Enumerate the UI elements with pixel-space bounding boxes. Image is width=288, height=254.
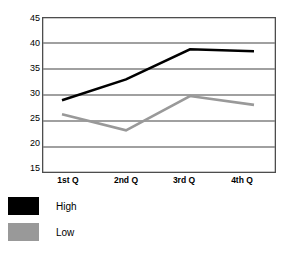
legend-label-low: Low — [56, 227, 74, 238]
y-tick-label-35: 35 — [18, 64, 40, 73]
plot-area-wrapper: 45 40 35 30 25 20 15 1st Q 2nd Q 3rd Q 4… — [0, 0, 288, 190]
x-tick-label-3rd-q: 3rd Q — [161, 176, 207, 185]
x-tick-label-2nd-q: 2nd Q — [103, 176, 149, 185]
chart-legend: High Low — [8, 193, 288, 245]
legend-item-high: High — [8, 193, 288, 219]
plot-canvas — [42, 17, 276, 173]
x-tick-label-1st-q: 1st Q — [45, 176, 91, 185]
x-tick-label-4th-q: 4th Q — [219, 176, 265, 185]
y-axis: 45 40 35 30 25 20 15 — [16, 0, 40, 175]
legend-swatch-low — [8, 223, 39, 241]
legend-label-high: High — [56, 201, 77, 212]
y-tick-label-40: 40 — [18, 39, 40, 48]
legend-item-low: Low — [8, 219, 288, 245]
y-tick-label-30: 30 — [18, 89, 40, 98]
y-tick-label-25: 25 — [18, 114, 40, 123]
y-tick-label-15: 15 — [18, 164, 40, 173]
legend-swatch-high — [8, 197, 39, 215]
y-tick-label-20: 20 — [18, 139, 40, 148]
y-tick-label-45: 45 — [18, 14, 40, 23]
line-chart: 45 40 35 30 25 20 15 1st Q 2nd Q 3rd Q 4… — [0, 0, 288, 254]
